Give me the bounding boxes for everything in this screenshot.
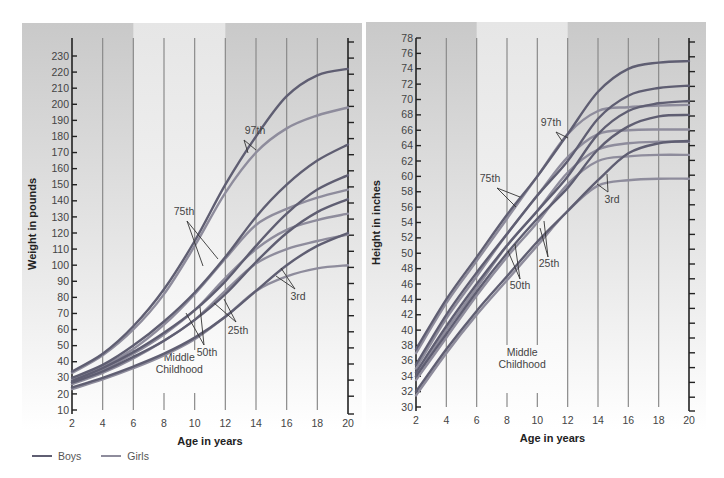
y-tick-label: 200: [51, 98, 69, 110]
y-tick-label: 68: [401, 108, 413, 120]
y-tick-label: 180: [51, 130, 69, 142]
x-tick-label: 6: [130, 417, 136, 429]
y-tick-label: 40: [401, 324, 413, 336]
x-tick-label: 14: [592, 414, 604, 426]
y-tick-label: 110: [52, 243, 69, 255]
x-tick-label: 2: [69, 417, 75, 429]
y-tick-label: 40: [57, 355, 69, 367]
legend-label-boys: Boys: [58, 450, 81, 462]
percentile-label: 25th: [539, 257, 560, 269]
x-tick-label: 20: [683, 414, 695, 426]
percentile-label: 25th: [228, 324, 249, 336]
y-tick-label: 32: [401, 385, 413, 397]
percentile-label: 97th: [541, 116, 562, 128]
y-tick-label: 42: [401, 308, 413, 320]
percentile-label: 3rd: [290, 290, 305, 302]
x-tick-label: 10: [189, 417, 201, 429]
y-axis-title: Height in inches: [370, 180, 382, 265]
y-tick-label: 64: [401, 139, 413, 151]
y-tick-label: 190: [51, 114, 69, 126]
y-tick-label: 78: [401, 32, 413, 44]
y-tick-label: 230: [51, 50, 69, 62]
growth-charts: 1020304050607080901001101201301401501601…: [0, 0, 724, 478]
x-tick-label: 4: [100, 417, 106, 429]
y-tick-label: 80: [57, 291, 69, 303]
percentile-label: 75th: [480, 172, 501, 184]
percentile-label: 50th: [510, 279, 531, 291]
legend-item-boys: Boys: [32, 450, 81, 462]
x-tick-label: 8: [504, 414, 510, 426]
y-tick-label: 54: [401, 216, 413, 228]
y-tick-label: 44: [401, 293, 413, 305]
percentile-label: 75th: [174, 205, 195, 217]
y-tick-label: 74: [401, 62, 413, 74]
y-tick-label: 20: [57, 388, 69, 400]
legend: Boys Girls: [32, 450, 149, 462]
y-tick-label: 76: [401, 47, 413, 59]
y-tick-label: 72: [401, 78, 413, 90]
y-tick-label: 170: [51, 146, 69, 158]
y-tick-label: 130: [51, 211, 69, 223]
legend-label-girls: Girls: [127, 450, 149, 462]
x-tick-label: 18: [311, 417, 323, 429]
y-tick-label: 70: [401, 93, 413, 105]
y-tick-label: 90: [57, 275, 69, 287]
y-tick-label: 56: [401, 201, 413, 213]
percentile-label: 50th: [197, 346, 218, 358]
y-tick-label: 160: [51, 162, 69, 174]
y-tick-label: 34: [401, 370, 413, 382]
x-tick-label: 20: [342, 417, 354, 429]
x-tick-label: 8: [161, 417, 167, 429]
x-tick-label: 2: [413, 414, 419, 426]
boys-line-swatch-icon: [32, 455, 52, 457]
legend-item-girls: Girls: [101, 450, 149, 462]
y-tick-label: 38: [401, 339, 413, 351]
y-tick-label: 58: [401, 185, 413, 197]
y-tick-label: 50: [57, 339, 69, 351]
percentile-label: 3rd: [604, 193, 619, 205]
y-tick-label: 52: [401, 231, 413, 243]
y-tick-label: 60: [401, 170, 413, 182]
percentile-label: 97th: [245, 124, 266, 136]
x-tick-label: 18: [653, 414, 665, 426]
y-tick-label: 30: [401, 401, 413, 413]
x-tick-label: 14: [250, 417, 262, 429]
y-tick-label: 66: [401, 124, 413, 136]
y-tick-label: 150: [51, 178, 69, 190]
x-tick-label: 12: [219, 417, 231, 429]
x-tick-label: 16: [281, 417, 293, 429]
y-tick-label: 120: [51, 227, 69, 239]
y-tick-label: 60: [57, 323, 69, 335]
y-tick-label: 50: [401, 247, 413, 259]
x-axis-title: Age in years: [520, 432, 585, 444]
girls-line-swatch-icon: [101, 455, 121, 457]
y-tick-label: 100: [51, 259, 69, 271]
x-tick-label: 4: [443, 414, 449, 426]
y-tick-label: 46: [401, 278, 413, 290]
y-axis-title: Weight in pounds: [26, 178, 38, 270]
y-tick-label: 210: [51, 82, 69, 94]
y-tick-label: 140: [51, 194, 69, 206]
x-tick-label: 10: [531, 414, 543, 426]
y-tick-label: 48: [401, 262, 413, 274]
y-tick-label: 30: [57, 371, 69, 383]
x-tick-label: 6: [474, 414, 480, 426]
y-tick-label: 70: [57, 307, 69, 319]
y-tick-label: 36: [401, 354, 413, 366]
middle-childhood-label: Middle: [507, 346, 538, 358]
middle-childhood-label: Childhood: [156, 363, 203, 375]
x-tick-label: 12: [562, 414, 574, 426]
height-chart: 3032343638404244464850525456586062646668…: [366, 22, 706, 444]
x-tick-label: 16: [622, 414, 634, 426]
x-axis-title: Age in years: [177, 435, 242, 447]
y-tick-label: 10: [57, 404, 69, 416]
y-tick-label: 220: [51, 66, 69, 78]
weight-chart: 1020304050607080901001101201301401501601…: [22, 23, 362, 447]
y-tick-label: 62: [401, 155, 413, 167]
middle-childhood-label: Childhood: [499, 358, 546, 370]
